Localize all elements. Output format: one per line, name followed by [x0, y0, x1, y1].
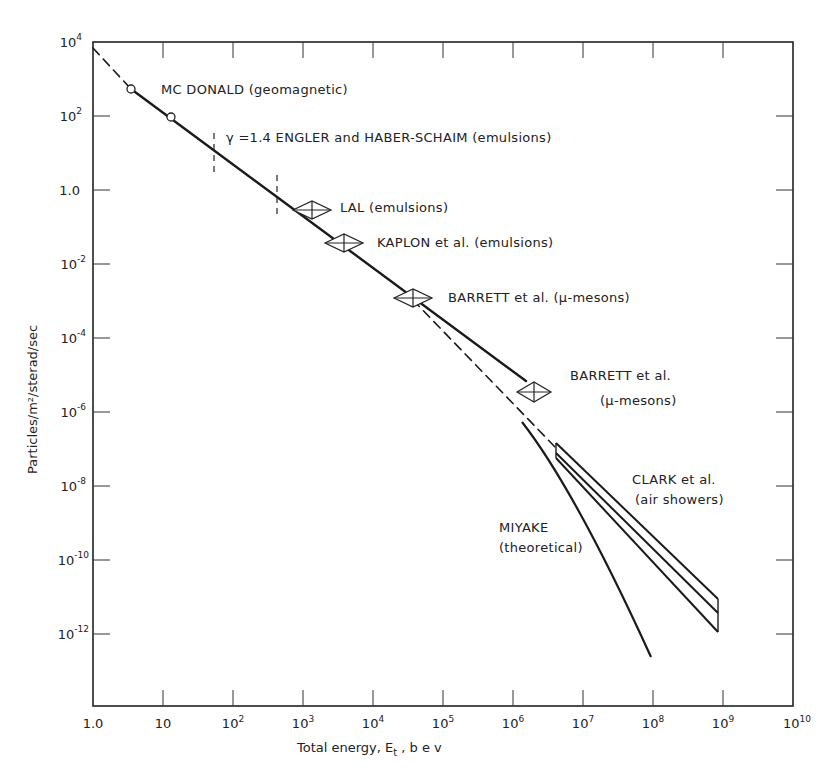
svg-text:10: 10 [155, 716, 172, 731]
svg-text:102: 102 [60, 106, 82, 124]
svg-text:102: 102 [222, 714, 244, 731]
label-lal: LAL (emulsions) [340, 200, 448, 215]
svg-text:10-10: 10-10 [58, 550, 90, 568]
svg-text:109: 109 [712, 714, 735, 731]
label-barrett1: BARRETT et al. (μ-mesons) [448, 290, 630, 305]
y-tick-labels: 104 102 1.0 10-2 10-4 10-6 10-8 10-10 10… [58, 32, 90, 642]
svg-text:10-12: 10-12 [58, 624, 89, 642]
svg-text:1.0: 1.0 [83, 716, 104, 731]
label-kaplon: KAPLON et al. (emulsions) [377, 235, 553, 250]
barrett2-diamond [517, 382, 551, 402]
svg-text:107: 107 [572, 714, 594, 731]
label-barrett2-line1: BARRETT et al. [570, 368, 671, 383]
label-miyake-line1: MIYAKE [499, 520, 548, 535]
svg-text:108: 108 [642, 714, 665, 731]
y-ticks [93, 116, 793, 634]
label-engler: γ =1.4 ENGLER and HABER-SCHAIM (emulsion… [226, 130, 552, 145]
lal-diamond [293, 201, 331, 219]
svg-text:10-4: 10-4 [60, 328, 86, 346]
engler-range-markers [214, 133, 277, 219]
svg-text:10-2: 10-2 [60, 254, 86, 272]
cosmic-ray-spectrum-chart: 1.0 10 102 103 104 105 106 107 108 109 1… [0, 0, 830, 783]
svg-text:1.0: 1.0 [59, 183, 80, 198]
svg-text:1010: 1010 [783, 714, 811, 731]
svg-text:104: 104 [362, 714, 385, 731]
x-tick-labels: 1.0 10 102 103 104 105 106 107 108 109 1… [83, 714, 812, 731]
svg-text:106: 106 [502, 714, 525, 731]
svg-text:105: 105 [432, 714, 454, 731]
svg-text:10-8: 10-8 [60, 476, 86, 494]
label-clark-line1: CLARK et al. [632, 472, 716, 487]
svg-text:103: 103 [292, 714, 314, 731]
label-barrett2-line2: (μ-mesons) [600, 393, 677, 408]
y-axis-title: Particles/m²/sterad/sec [25, 325, 40, 474]
label-miyake-line2: (theoretical) [499, 540, 583, 555]
svg-text:10-6: 10-6 [60, 402, 86, 420]
label-clark-line2: (air showers) [635, 492, 724, 507]
x-axis-title: Total energy, Et , b e v [296, 740, 442, 758]
svg-text:104: 104 [60, 32, 83, 50]
label-mcdonald: MC DONALD (geomagnetic) [161, 82, 348, 97]
barrett1-diamond [394, 289, 432, 307]
